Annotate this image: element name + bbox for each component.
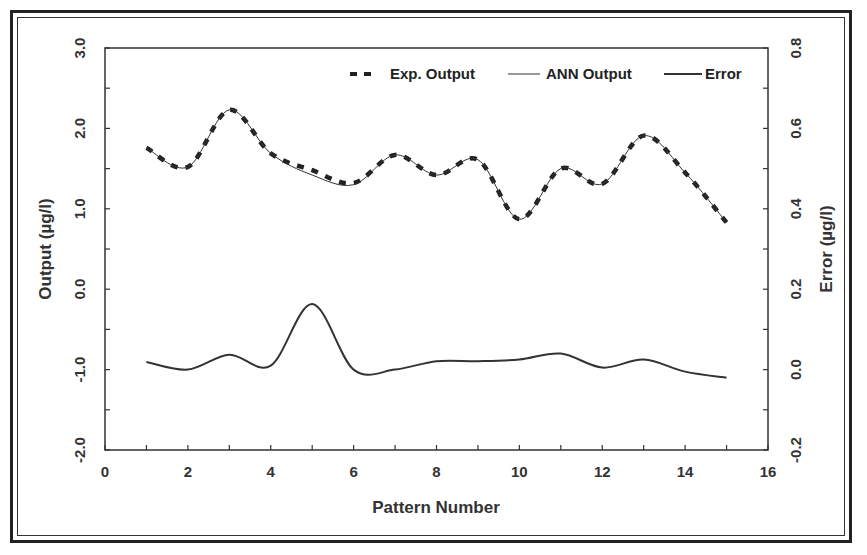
chart: 0246810121416-2.0-1.00.01.02.03.0-0.20.0… [0,0,867,555]
y-left-tick-label: 2.0 [71,118,88,139]
tick-labels: 0246810121416-2.0-1.00.01.02.03.0-0.20.0… [71,38,804,480]
x-tick-label: 14 [677,463,694,480]
plot-area [105,48,768,450]
y-left-tick-label: 0.0 [71,279,88,300]
x-tick-label: 8 [432,463,440,480]
error-line [146,304,726,378]
x-axis-title: Pattern Number [372,498,500,517]
x-tick-label: 16 [760,463,777,480]
y-left-tick-label: 3.0 [71,38,88,59]
x-tick-label: 10 [511,463,528,480]
y-right-tick-label: 0.4 [787,198,804,220]
axis-ticks [105,48,768,450]
legend-exp-label: Exp. Output [390,65,475,82]
ann-output-line [146,110,726,223]
x-tick-label: 0 [101,463,109,480]
legend: Exp. Output ANN Output Error [350,65,742,82]
x-tick-label: 4 [267,463,276,480]
y-left-tick-label: -2.0 [71,437,88,463]
x-tick-label: 6 [349,463,357,480]
exp-output-line [146,110,726,223]
x-tick-label: 2 [184,463,192,480]
x-tick-label: 12 [594,463,611,480]
y-right-axis-title: Error (µg/l) [817,205,836,292]
y-left-tick-label: 1.0 [71,198,88,219]
legend-error-label: Error [705,65,742,82]
data-series [146,110,726,378]
y-right-tick-label: 0.2 [787,279,804,300]
y-left-tick-label: -1.0 [71,357,88,383]
y-right-tick-label: 0.0 [787,359,804,380]
y-right-tick-label: 0.8 [787,38,804,59]
y-left-axis-title: Output (µg/l) [36,198,55,299]
y-right-tick-label: -0.2 [787,437,804,463]
legend-ann-label: ANN Output [546,65,632,82]
y-right-tick-label: 0.6 [787,118,804,139]
